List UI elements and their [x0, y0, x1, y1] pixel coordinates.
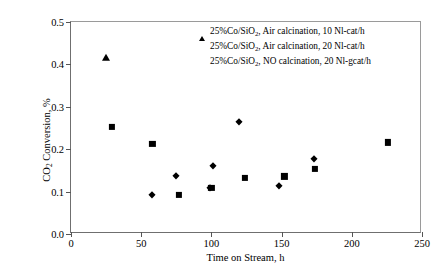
triangle-icon: [199, 26, 205, 41]
legend-label-post: , Air calcination, 10 Nl-cat/h: [258, 26, 364, 36]
y-tick-label: 0.5: [51, 17, 64, 28]
data-point-diamond: [310, 155, 317, 162]
legend-entry: 25%Co/SiO2, Air calcination, 20 Nl-cat/h: [196, 39, 371, 54]
legend-label-pre: 25%Co/SiO: [210, 41, 255, 51]
y-axis-title-sub: 2: [45, 163, 54, 167]
y-tick: [66, 149, 71, 150]
y-tick: [66, 192, 71, 193]
x-tick: [422, 232, 423, 237]
y-tick: [66, 64, 71, 65]
x-tick-label: 150: [274, 238, 290, 249]
x-tick-label: 50: [136, 238, 147, 249]
legend-entry: 25%Co/SiO2, NO calcination, 20 Nl-gcat/h: [196, 54, 371, 69]
legend-label-pre: 25%Co/SiO: [210, 26, 255, 36]
data-point-diamond: [275, 182, 282, 189]
y-tick-label: 0.1: [51, 186, 64, 197]
legend-label-post: , NO calcination, 20 Nl-gcat/h: [258, 56, 371, 66]
data-point-diamond: [173, 172, 180, 179]
y-tick-label: 0.2: [51, 144, 64, 155]
data-point-square: [242, 175, 248, 181]
legend-marker-triangle-icon: [196, 24, 207, 38]
data-point-diamond: [149, 191, 156, 198]
legend-entry: 25%Co/SiO2, Air calcination, 10 Nl-cat/h: [196, 24, 371, 39]
x-tick: [211, 232, 212, 237]
x-tick: [282, 232, 283, 237]
data-point-square: [385, 139, 391, 145]
chart-figure: CO2 Conversion, % Time on Stream, h 0.00…: [0, 0, 447, 280]
y-tick: [66, 107, 71, 108]
data-point-square: [312, 166, 318, 172]
legend-label-pre: 25%Co/SiO: [210, 56, 255, 66]
data-point-square: [109, 124, 115, 130]
y-tick-label: 0.3: [51, 101, 64, 112]
y-axis-title-pre: CO: [41, 167, 52, 182]
data-point-square: [281, 173, 287, 179]
chart-legend: 25%Co/SiO2, Air calcination, 10 Nl-cat/h…: [196, 24, 371, 69]
x-tick-label: 0: [68, 238, 73, 249]
y-tick: [66, 22, 71, 23]
data-point-square: [176, 192, 182, 198]
x-tick: [71, 232, 72, 237]
legend-label-post: , Air calcination, 20 Nl-cat/h: [258, 41, 364, 51]
x-axis-title: Time on Stream, h: [70, 252, 421, 263]
data-point-triangle: [102, 54, 110, 61]
x-tick: [352, 232, 353, 237]
y-tick-label: 0.4: [51, 59, 64, 70]
x-tick: [141, 232, 142, 237]
data-point-diamond: [209, 162, 216, 169]
data-point-diamond: [236, 118, 243, 125]
x-tick-label: 100: [204, 238, 220, 249]
legend-label: 25%Co/SiO2, Air calcination, 10 Nl-cat/h: [210, 24, 365, 39]
x-tick-label: 200: [344, 238, 360, 249]
legend-label: 25%Co/SiO2, NO calcination, 20 Nl-gcat/h: [210, 54, 371, 69]
x-tick-label: 250: [414, 238, 430, 249]
y-tick-label: 0.0: [51, 229, 64, 240]
data-point-square: [149, 141, 155, 147]
data-point-square: [208, 185, 214, 191]
legend-label: 25%Co/SiO2, Air calcination, 20 Nl-cat/h: [210, 39, 365, 54]
